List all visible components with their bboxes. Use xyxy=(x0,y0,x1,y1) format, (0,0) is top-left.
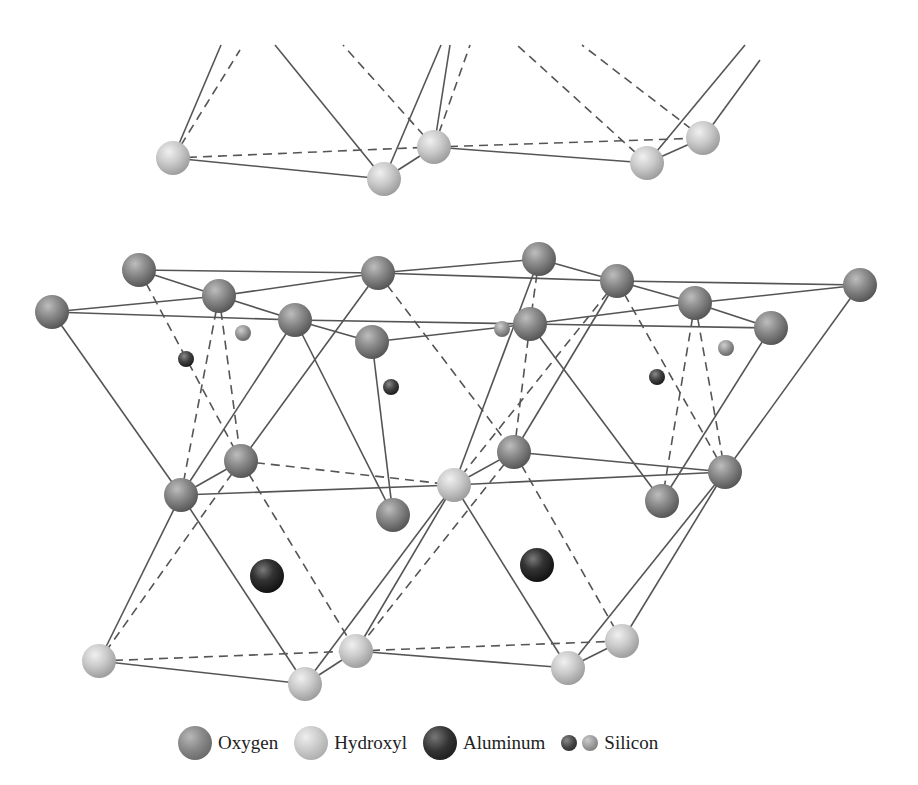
hydroxyl-sphere-icon xyxy=(294,726,328,760)
dashed-bond-line xyxy=(517,45,647,163)
solid-bond-line xyxy=(99,495,181,661)
solid-bond-line xyxy=(725,285,860,472)
solid-bond-line xyxy=(378,273,617,281)
hydroxyl-atom xyxy=(437,468,471,502)
atoms xyxy=(35,121,877,701)
hydroxyl-atom xyxy=(339,634,373,668)
dashed-bond-line xyxy=(99,651,356,661)
solid-bond-line xyxy=(241,273,378,461)
solid-bond-line xyxy=(99,661,305,684)
oxygen-atom xyxy=(843,268,877,302)
dashed-bond-line xyxy=(662,303,695,501)
hydroxyl-atom xyxy=(605,624,639,658)
si-dark-atom xyxy=(178,351,194,367)
dashed-bond-line xyxy=(582,45,703,138)
aluminum-atom xyxy=(250,559,284,593)
solid-bond-line xyxy=(514,281,617,452)
si-light-atom xyxy=(494,321,510,337)
solid-bond-line xyxy=(378,259,539,273)
solid-bond-line xyxy=(695,285,860,303)
solid-bond-line xyxy=(52,312,295,320)
dashed-bond-line xyxy=(219,296,241,461)
hydroxyl-atom xyxy=(551,651,585,685)
solid-bond-line xyxy=(530,324,771,328)
legend-item-aluminum: Aluminum xyxy=(423,726,545,760)
solid-bond-line xyxy=(173,45,221,158)
dashed-bond-line xyxy=(356,452,514,651)
solid-bond-line xyxy=(454,472,725,485)
oxygen-atom xyxy=(678,286,712,320)
solid-bond-line xyxy=(219,273,378,296)
oxygen-atom xyxy=(278,303,312,337)
legend-label: Hydroxyl xyxy=(334,732,407,754)
hydroxyl-atom xyxy=(367,162,401,196)
legend-item-hydroxyl: Hydroxyl xyxy=(294,726,407,760)
si-light-atom xyxy=(718,340,734,356)
oxygen-atom xyxy=(376,498,410,532)
dashed-bond-line xyxy=(241,461,454,485)
dashed-bond-line xyxy=(695,303,725,472)
oxygen-atom xyxy=(355,325,389,359)
aluminum-atom xyxy=(520,548,554,582)
solid-bond-line xyxy=(295,320,530,324)
oxygen-atom xyxy=(224,444,258,478)
dashed-bond-line xyxy=(173,50,240,158)
oxygen-atom xyxy=(522,242,556,276)
oxygen-atom xyxy=(708,455,742,489)
solid-bond-line xyxy=(372,342,393,515)
solid-bond-line xyxy=(181,495,305,684)
solid-bond-line xyxy=(530,303,695,324)
legend-item-silicon: Silicon xyxy=(561,732,658,754)
si-dark-atom xyxy=(649,369,665,385)
solid-bond-line xyxy=(514,452,725,472)
oxygen-atom xyxy=(754,311,788,345)
legend: Oxygen Hydroxyl Aluminum Silicon xyxy=(178,728,674,758)
hydroxyl-atom xyxy=(686,121,720,155)
silicon-dark-sphere-icon xyxy=(561,735,577,751)
oxygen-atom xyxy=(164,478,198,512)
bond-lines xyxy=(52,45,860,684)
oxygen-atom xyxy=(513,307,547,341)
hydroxyl-atom xyxy=(156,141,190,175)
dashed-bond-line xyxy=(514,452,622,641)
solid-bond-line xyxy=(275,45,384,179)
hydroxyl-atom xyxy=(630,146,664,180)
dashed-bond-line xyxy=(343,45,434,147)
silicon-light-sphere-icon xyxy=(582,735,598,751)
aluminum-sphere-icon xyxy=(423,726,457,760)
dashed-bond-line xyxy=(514,324,530,452)
solid-bond-line xyxy=(454,485,568,668)
hydroxyl-atom xyxy=(417,130,451,164)
si-light-atom xyxy=(235,325,251,341)
crystal-structure-diagram xyxy=(0,0,918,785)
legend-item-oxygen: Oxygen xyxy=(178,726,278,760)
oxygen-atom xyxy=(497,435,531,469)
oxygen-atom xyxy=(600,264,634,298)
oxygen-sphere-icon xyxy=(178,726,212,760)
solid-bond-line xyxy=(434,147,647,163)
solid-bond-line xyxy=(52,296,219,312)
dashed-bond-line xyxy=(378,273,514,452)
legend-label: Oxygen xyxy=(218,732,278,754)
si-dark-atom xyxy=(383,379,399,395)
solid-bond-line xyxy=(173,158,384,179)
solid-bond-line xyxy=(52,312,181,495)
solid-bond-line xyxy=(356,651,568,668)
oxygen-atom xyxy=(122,253,156,287)
legend-label: Silicon xyxy=(604,732,658,754)
oxygen-atom xyxy=(35,295,69,329)
solid-bond-line xyxy=(530,324,662,501)
oxygen-atom xyxy=(202,279,236,313)
oxygen-atom xyxy=(361,256,395,290)
hydroxyl-atom xyxy=(82,644,116,678)
solid-bond-line xyxy=(139,270,378,273)
dashed-bond-line xyxy=(434,138,703,147)
hydroxyl-atom xyxy=(288,667,322,701)
legend-label: Aluminum xyxy=(463,732,545,754)
oxygen-atom xyxy=(645,484,679,518)
solid-bond-line xyxy=(617,281,860,285)
